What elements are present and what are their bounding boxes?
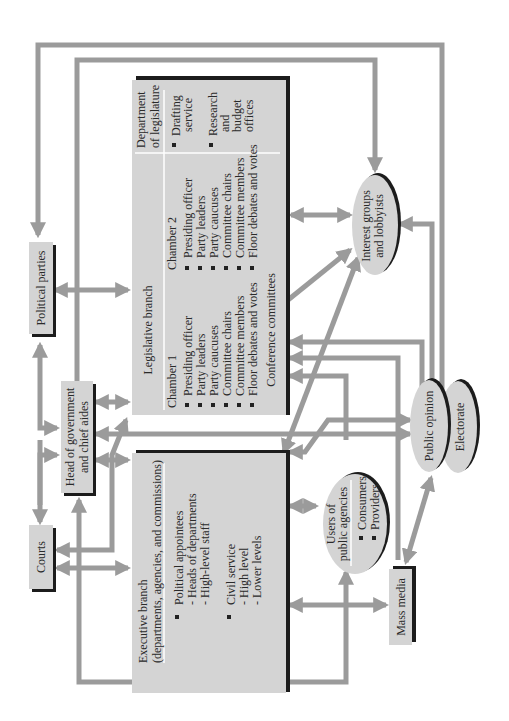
node-interest-groups: Interest groups and lobbyists [352, 173, 401, 275]
bullet-icon [224, 403, 228, 407]
bullet-icon [211, 266, 215, 270]
bullet-icon [198, 266, 202, 270]
arrow-parties-head [40, 345, 57, 428]
public-opinion-label: Public opinion [422, 391, 436, 461]
chamber1-title: Chamber 1 [165, 355, 179, 408]
node-political-parties: Political parties [29, 242, 56, 337]
political-parties-label: Political parties [34, 250, 48, 325]
bullet-icon [250, 266, 254, 270]
arrow-to-head-from-below [40, 455, 57, 505]
executive-title2: (departments, agencies, and commissions) [150, 460, 164, 663]
bullet-icon [209, 143, 213, 147]
department-item1-line2: service [181, 98, 195, 132]
bullet-icon [198, 403, 202, 407]
bullet-icon [359, 536, 363, 540]
department-title2: of legislature [148, 85, 162, 148]
executive-group1-title: Political appointees [172, 510, 186, 605]
executive-group1-sub: - Heads of departments [185, 493, 199, 605]
executive-group1-sub: - High-level staff [198, 523, 212, 605]
arrow-legislative-to-interest-groups-diag [288, 250, 350, 300]
bullet-icon [172, 143, 176, 147]
bullet-icon [185, 266, 189, 270]
interest-groups-line2: and lobbyists [372, 194, 386, 258]
bullet-icon [237, 266, 241, 270]
chamber2-item: Floor debates and votes [246, 144, 260, 258]
chamber2-item: Committee chairs [220, 173, 234, 258]
node-legislative-branch: Legislative branch Department of legisla… [132, 76, 290, 415]
chamber2-item: Presiding officer [181, 178, 195, 258]
chamber2-item: Committee members [233, 157, 247, 258]
bullet-icon [250, 403, 254, 407]
chamber1-item: Party leaders [194, 333, 208, 396]
node-head-of-government: Head of government and chief aides [61, 381, 96, 496]
bullet-icon [175, 615, 179, 619]
chamber1-item: Party caucuses [207, 325, 221, 396]
department-item2-line4: offices [242, 99, 256, 132]
department-title1: Department [134, 91, 148, 148]
electorate-label: Electorate [453, 403, 467, 452]
bullet-icon [224, 266, 228, 270]
node-courts: Courts [29, 525, 56, 592]
mass-media-label: Mass media [394, 577, 408, 635]
arrow-to-courts [57, 530, 112, 550]
chamber2-title: Chamber 2 [165, 217, 179, 270]
users-line2: public agencies [336, 487, 350, 562]
node-executive-branch: Executive branch (departments, agencies,… [132, 450, 290, 693]
node-users-of-public-agencies: Users of public agencies Consumers Provi… [323, 472, 390, 574]
bullet-icon [211, 403, 215, 407]
conference-committees: Conference committees [264, 273, 278, 387]
executive-group2-title: Civil service [224, 544, 238, 605]
arrow-public-opinion-to-interest-groups [400, 224, 432, 390]
bullet-icon [237, 403, 241, 407]
courts-label: Courts [34, 541, 48, 573]
bullet-icon [227, 615, 231, 619]
users-item: Providers [368, 484, 382, 530]
executive-group2-sub: - Lower levels [250, 535, 264, 605]
users-item: Consumers [355, 476, 369, 530]
chamber2-item: Party caucuses [207, 187, 221, 258]
policy-process-diagram: Political parties Courts Head of governm… [0, 0, 509, 721]
arrow-mass-media-public-opinion [406, 478, 431, 562]
bullet-icon [185, 403, 189, 407]
chamber1-item: Floor debates and votes [246, 282, 260, 396]
head-of-government-line1: Head of government [63, 387, 77, 486]
chamber1-item: Presiding officer [181, 316, 195, 396]
legislative-title: Legislative branch [141, 286, 155, 375]
interest-groups-line1: Interest groups [359, 190, 373, 262]
bullet-icon [372, 536, 376, 540]
head-of-government-line2: and chief aides [77, 401, 91, 473]
chamber1-item: Committee members [233, 295, 247, 396]
executive-group2-sub: - High level [237, 547, 251, 605]
node-mass-media: Mass media [389, 566, 416, 645]
chamber2-item: Party leaders [194, 195, 208, 258]
chamber1-item: Committee chairs [220, 311, 234, 396]
executive-title1: Executive branch [136, 579, 150, 663]
